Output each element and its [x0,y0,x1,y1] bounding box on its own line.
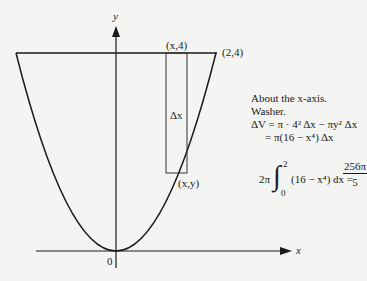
point-top-right-label: (2,4) [222,47,243,58]
origin-label: 0 [107,256,113,267]
integral-expression: 2π ∫ 2 0 (16 − x⁴) dx = 256π 5 [251,160,367,200]
strip-width-label: Δx [170,110,183,121]
x-axis-arrow-icon [280,247,292,255]
point-strip-bottom-label: (x,y) [178,178,199,189]
y-axis-arrow-icon [112,26,120,37]
point-strip-top-label: (x,4) [166,40,187,51]
integral-lower-limit: 0 [281,189,286,198]
note-simplified: = π(16 − x⁴) Δx [251,131,357,144]
integral-sign: ∫ [273,162,281,190]
result-numerator: 256π [343,160,367,174]
y-axis-label: y [113,11,118,22]
integral-result: 256π 5 [343,160,367,188]
note-method: Washer. [251,105,357,118]
result-denominator: 5 [343,174,367,188]
note-delta-v: ΔV = π · 4² Δx − πy² Δx [251,118,357,131]
integral-coefficient: 2π [259,174,270,185]
washer-notes: About the x-axis. Washer. ΔV = π · 4² Δx… [251,92,357,144]
integral-upper-limit: 2 [283,160,288,169]
note-axis: About the x-axis. [251,92,357,105]
x-axis-label: x [296,245,301,256]
